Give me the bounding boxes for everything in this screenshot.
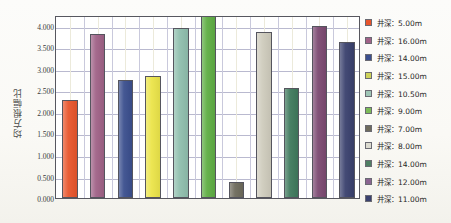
gridline-vertical bbox=[139, 17, 140, 198]
legend-swatch-icon bbox=[365, 125, 372, 132]
legend-swatch-icon bbox=[365, 160, 372, 167]
legend-swatch-icon bbox=[365, 72, 372, 79]
legend-swatch-icon bbox=[365, 37, 372, 44]
legend-item-label: 井深：16.00m bbox=[377, 35, 427, 46]
bar-sheen bbox=[230, 183, 244, 197]
legend-item-label: 井深：7.00m bbox=[377, 123, 422, 134]
legend-item-label: 井深：14.00m bbox=[377, 158, 427, 169]
legend-item-label: 井深：5.00m bbox=[377, 17, 422, 28]
bar-8 bbox=[256, 32, 272, 198]
gridline-vertical bbox=[167, 17, 168, 198]
legend-item[interactable]: 井深：14.00m bbox=[365, 155, 451, 173]
gridline-vertical bbox=[250, 17, 251, 198]
y-axis-tick-label: 1.500 bbox=[37, 130, 54, 139]
legend-item[interactable]: 井深：8.00m bbox=[365, 137, 451, 155]
gridline-vertical bbox=[84, 17, 85, 198]
y-axis-tick-label: 2.500 bbox=[37, 87, 54, 96]
bar-9 bbox=[284, 88, 300, 198]
bar-1 bbox=[62, 100, 78, 198]
legend-item[interactable]: 井深：5.00m bbox=[365, 14, 451, 32]
legend-item-label: 井深：11.00m bbox=[377, 193, 427, 204]
y-axis-tick-label: 0.000 bbox=[37, 195, 54, 204]
legend-item-label: 井深：12.00m bbox=[377, 176, 427, 187]
bar-sheen bbox=[257, 33, 271, 197]
gridline-vertical bbox=[112, 17, 113, 198]
legend-item[interactable]: 井深：16.00m bbox=[365, 32, 451, 50]
plot-area bbox=[55, 16, 360, 199]
bar-2 bbox=[90, 34, 106, 198]
y-axis-tick-label: 2.000 bbox=[37, 108, 54, 117]
bar-4 bbox=[145, 76, 161, 198]
legend-item[interactable]: 井深：9.00m bbox=[365, 102, 451, 120]
gridline-vertical bbox=[278, 17, 279, 198]
legend-item-label: 井深：8.00m bbox=[377, 140, 422, 151]
legend-item[interactable]: 井深：7.00m bbox=[365, 120, 451, 138]
legend-item-label: 井深：9.00m bbox=[377, 105, 422, 116]
gridline-vertical bbox=[195, 17, 196, 198]
legend-item-label: 井深：10.50m bbox=[377, 88, 427, 99]
bar-sheen bbox=[285, 89, 299, 197]
legend-swatch-icon bbox=[365, 54, 372, 61]
legend-item[interactable]: 井深：14.00m bbox=[365, 49, 451, 67]
legend-swatch-icon bbox=[365, 178, 372, 185]
chart-legend: 井深：5.00m井深：16.00m井深：14.00m井深：15.00m井深：10… bbox=[365, 14, 451, 208]
gridline-vertical bbox=[333, 17, 334, 198]
bar-sheen bbox=[146, 77, 160, 197]
legend-item[interactable]: 井深：10.50m bbox=[365, 84, 451, 102]
legend-item[interactable]: 井深：15.00m bbox=[365, 67, 451, 85]
bar-sheen bbox=[313, 27, 327, 197]
legend-swatch-icon bbox=[365, 19, 372, 26]
y-axis-title-text: 均方根幅比 bbox=[13, 88, 22, 138]
bar-10 bbox=[312, 26, 328, 198]
y-axis-tick-label: 4.000 bbox=[37, 22, 54, 31]
legend-item[interactable]: 井深：11.00m bbox=[365, 190, 451, 208]
bar-5 bbox=[173, 28, 189, 198]
y-axis-title: 均方根幅比 bbox=[8, 58, 26, 168]
legend-swatch-icon bbox=[365, 107, 372, 114]
legend-swatch-icon bbox=[365, 142, 372, 149]
bar-sheen bbox=[174, 29, 188, 197]
bar-11 bbox=[339, 42, 355, 198]
legend-item[interactable]: 井深：12.00m bbox=[365, 172, 451, 190]
bar-sheen bbox=[63, 101, 77, 197]
bar-chart: 均方根幅比 4.0003.5003.0002.5002.0001.5001.00… bbox=[0, 0, 451, 223]
bar-sheen bbox=[340, 43, 354, 197]
y-axis-tick-label: 0.500 bbox=[37, 173, 54, 182]
legend-item-label: 井深：14.00m bbox=[377, 52, 427, 63]
bar-sheen bbox=[202, 16, 216, 197]
y-axis-tick-label: 1.000 bbox=[37, 151, 54, 160]
legend-swatch-icon bbox=[365, 90, 372, 97]
gridline-vertical bbox=[222, 17, 223, 198]
bar-7 bbox=[229, 182, 245, 198]
y-axis-tick-label: 3.500 bbox=[37, 44, 54, 53]
legend-swatch-icon bbox=[365, 195, 372, 202]
legend-item-label: 井深：15.00m bbox=[377, 70, 427, 81]
bar-sheen bbox=[119, 81, 133, 197]
bar-3 bbox=[118, 80, 134, 198]
bar-6 bbox=[201, 16, 217, 198]
gridline-vertical bbox=[306, 17, 307, 198]
bar-sheen bbox=[91, 35, 105, 197]
y-axis-tick-label: 3.000 bbox=[37, 65, 54, 74]
y-axis-tick-labels: 4.0003.5003.0002.5002.0001.5001.0000.500… bbox=[26, 0, 56, 223]
gridline-vertical-minor bbox=[236, 17, 237, 198]
